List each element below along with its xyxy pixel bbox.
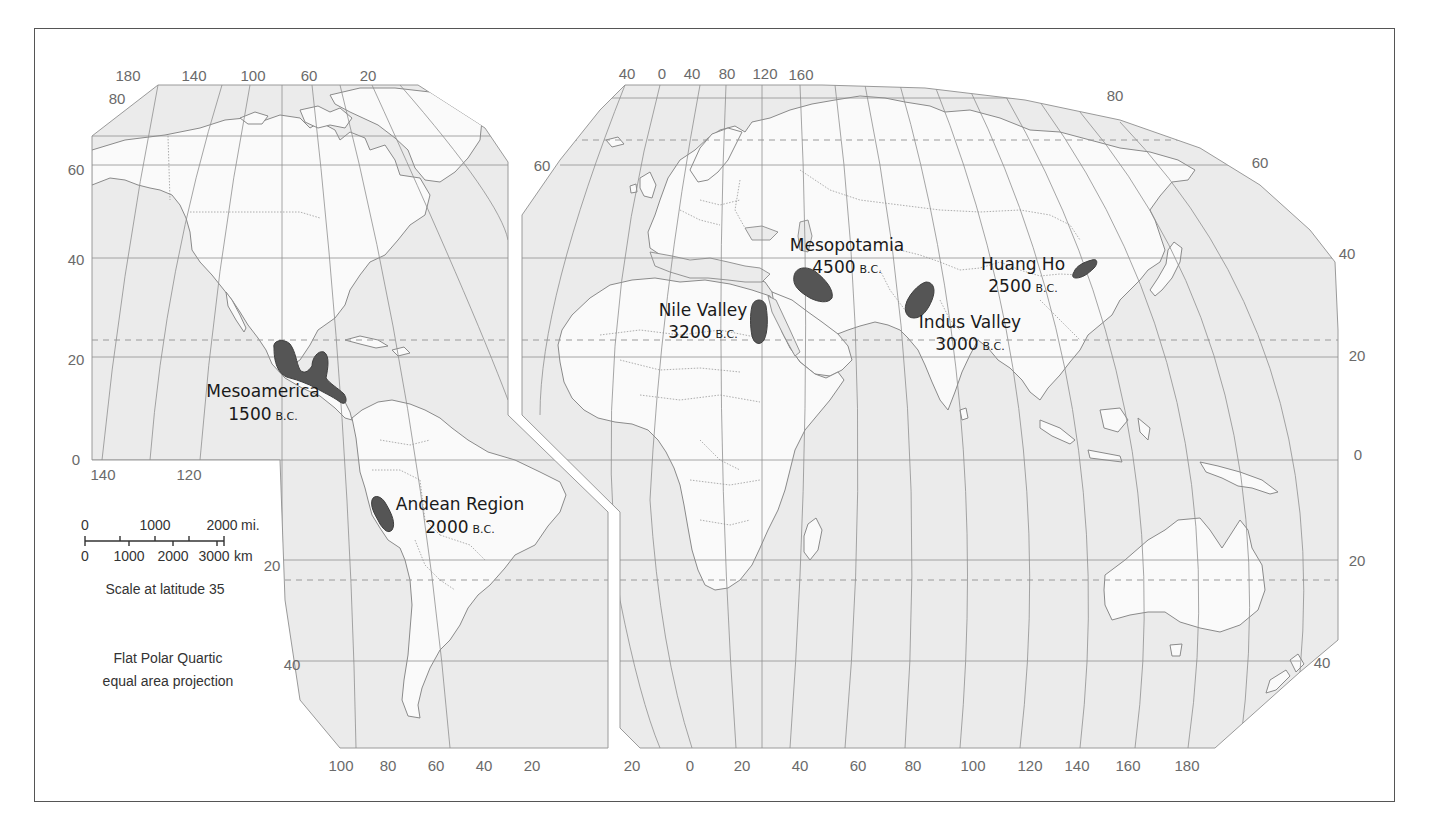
lon-label: 140 — [1064, 757, 1089, 774]
scale-caption: Scale at latitude 35 — [105, 581, 224, 597]
lon-label: 160 — [788, 66, 813, 83]
nile-valley-hearth — [751, 300, 768, 343]
hearth-era: B.C. — [716, 328, 738, 341]
lat-label: 60 — [68, 161, 85, 178]
lon-label: 140 — [90, 466, 115, 483]
lon-label: 20 — [624, 757, 641, 774]
scale-mile-unit: mi. — [241, 517, 260, 533]
lon-label: 40 — [792, 757, 809, 774]
lon-label: 120 — [176, 466, 201, 483]
lon-label: 60 — [850, 757, 867, 774]
lon-label: 20 — [524, 757, 541, 774]
scale-km-label: 1000 — [113, 548, 144, 564]
lon-label: 80 — [905, 757, 922, 774]
lon-label: 100 — [960, 757, 985, 774]
lon-label: 180 — [1174, 757, 1199, 774]
lon-label: 0 — [686, 757, 694, 774]
hearth-name: Mesoamerica — [206, 381, 319, 401]
hearth-name: Huang Ho — [981, 254, 1065, 274]
scale-km-label: 0 — [81, 548, 89, 564]
lon-label: 100 — [240, 67, 265, 84]
lon-label: 40 — [684, 65, 701, 82]
hearth-era: B.C. — [1036, 282, 1058, 295]
hearth-year: 4500 — [812, 257, 855, 277]
lat-label: 40 — [1339, 245, 1356, 262]
lat-label: 40 — [284, 656, 301, 673]
lon-label: 100 — [328, 757, 353, 774]
lon-label: 40 — [476, 757, 493, 774]
hearth-year: 3200 — [668, 322, 711, 342]
eastern-hemisphere-panel — [522, 85, 1338, 748]
lon-label: 20 — [734, 757, 751, 774]
lon-label: 180 — [115, 67, 140, 84]
lat-label: 60 — [534, 157, 551, 174]
world-map: 180 140 100 60 20 80 60 40 20 0 140 120 … — [0, 0, 1430, 829]
lat-label: 20 — [68, 351, 85, 368]
lat-label: 20 — [1349, 552, 1366, 569]
lat-label: 0 — [72, 451, 80, 468]
hearth-era: B.C. — [473, 523, 495, 536]
lon-label: 160 — [1115, 757, 1140, 774]
lat-label: 80 — [109, 90, 126, 107]
hearth-era: B.C. — [276, 410, 298, 423]
hearth-year: 2000 — [425, 517, 468, 537]
scale-mile-label: 0 — [81, 517, 89, 533]
scale-bar: 0 1000 2000 mi. 0 1000 2000 3000 km Scal… — [81, 517, 260, 597]
lat-label: 20 — [264, 557, 281, 574]
projection-note: Flat Polar Quartic equal area projection — [103, 650, 234, 689]
lat-label: 0 — [1354, 446, 1362, 463]
hearth-year: 1500 — [228, 404, 271, 424]
scale-mile-label: 1000 — [139, 517, 170, 533]
tasmania-land — [1170, 644, 1182, 656]
lon-label: 120 — [752, 65, 777, 82]
lat-label: 40 — [68, 251, 85, 268]
lon-label: 0 — [658, 65, 666, 82]
hearth-year: 2500 — [988, 276, 1031, 296]
projection-type: equal area projection — [103, 673, 234, 689]
lon-label: 140 — [181, 67, 206, 84]
lon-label: 80 — [380, 757, 397, 774]
lon-label: 80 — [719, 65, 736, 82]
lon-label: 60 — [301, 67, 318, 84]
hearth-name: Indus Valley — [919, 312, 1021, 332]
lat-label: 80 — [1107, 87, 1124, 104]
lat-label: 40 — [1314, 654, 1331, 671]
hearth-era: B.C. — [983, 340, 1005, 353]
hearth-year: 3000 — [935, 334, 978, 354]
scale-km-unit: km — [234, 548, 253, 564]
projection-name: Flat Polar Quartic — [114, 650, 223, 666]
scale-km-label: 3000 — [198, 548, 229, 564]
hearth-name: Mesopotamia — [790, 235, 904, 255]
scale-km-label: 2000 — [157, 548, 188, 564]
lon-label: 60 — [428, 757, 445, 774]
lon-label: 120 — [1017, 757, 1042, 774]
hearth-name: Nile Valley — [659, 300, 748, 320]
hearth-name: Andean Region — [396, 494, 524, 514]
lat-label: 60 — [1252, 154, 1269, 171]
lon-label: 40 — [619, 65, 636, 82]
lon-label: 20 — [360, 67, 377, 84]
hearth-era: B.C. — [860, 263, 882, 276]
scale-mile-label: 2000 — [206, 517, 237, 533]
lat-label: 20 — [1349, 347, 1366, 364]
